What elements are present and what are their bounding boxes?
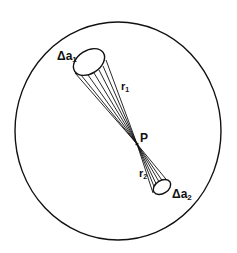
distance-r2-label: r2 <box>139 167 147 180</box>
area-1-label: Δa1 <box>57 49 77 64</box>
distance-r1-label: r1 <box>121 80 129 93</box>
outer-sphere-circle <box>15 22 221 240</box>
diagram-canvas: Δa1 r1 P r2 Δa2 <box>0 0 237 253</box>
area-2-label: Δa2 <box>172 187 192 202</box>
point-p-marker <box>135 142 138 145</box>
point-p-label: P <box>140 131 148 145</box>
